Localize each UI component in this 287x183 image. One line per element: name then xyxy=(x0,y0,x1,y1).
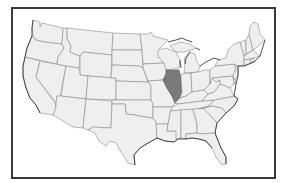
state-ks[interactable] xyxy=(116,81,151,100)
state-mt[interactable] xyxy=(67,28,113,56)
state-ne[interactable] xyxy=(111,65,148,82)
state-ny[interactable] xyxy=(215,42,244,66)
state-co[interactable] xyxy=(86,76,116,100)
state-nd[interactable] xyxy=(112,33,142,50)
us-map xyxy=(0,0,287,183)
state-nm[interactable] xyxy=(83,99,112,130)
state-wy[interactable] xyxy=(80,52,112,78)
state-az[interactable] xyxy=(53,96,86,128)
